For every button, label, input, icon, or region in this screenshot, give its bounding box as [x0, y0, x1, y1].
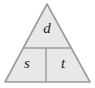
- formula-triangle-diagram: d s t: [0, 0, 95, 88]
- cell-label-bottom-left: s: [24, 55, 30, 71]
- formula-triangle-figure: d s t: [0, 0, 95, 88]
- triangle-outline: [5, 4, 90, 82]
- cell-label-top: d: [43, 20, 51, 36]
